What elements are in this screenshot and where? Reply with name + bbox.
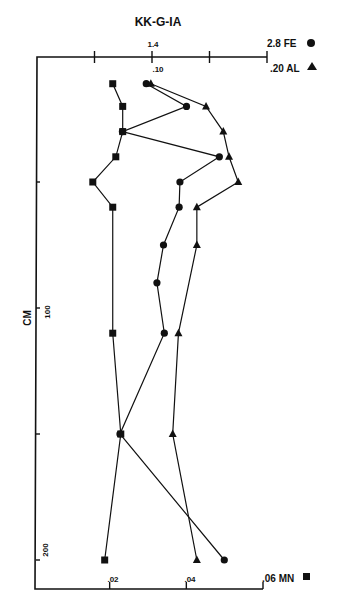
fe-point-circle-icon bbox=[176, 178, 183, 185]
fe-point-circle-icon bbox=[160, 241, 167, 248]
fe-legend-circle-icon bbox=[307, 39, 315, 47]
y-axis-label: CM bbox=[22, 310, 33, 326]
al-point-triangle-icon bbox=[169, 430, 177, 438]
fe-point-circle-icon bbox=[183, 103, 190, 110]
mn-point-square-icon bbox=[117, 431, 124, 438]
series-line-al bbox=[151, 84, 238, 560]
al-point-triangle-icon bbox=[234, 178, 242, 186]
fe-point-circle-icon bbox=[161, 330, 168, 337]
chart-title: KK-G-IA bbox=[135, 15, 182, 29]
al-point-triangle-icon bbox=[193, 556, 201, 564]
fe-point-circle-icon bbox=[153, 279, 160, 286]
al-point-triangle-icon bbox=[225, 152, 233, 160]
al-point-triangle-icon bbox=[193, 241, 201, 249]
mn-point-square-icon bbox=[112, 153, 119, 160]
mn-point-square-icon bbox=[119, 103, 126, 110]
axis-frame bbox=[35, 57, 267, 589]
top-axis-al-max-label: .20 AL bbox=[270, 63, 300, 74]
fe-point-circle-icon bbox=[216, 153, 223, 160]
fe-point-circle-icon bbox=[176, 204, 183, 211]
mn-point-square-icon bbox=[119, 128, 126, 135]
series-line-fe bbox=[120, 84, 224, 560]
mn-point-square-icon bbox=[109, 80, 116, 87]
y-tick-label-200: 200 bbox=[41, 543, 50, 557]
top-axis-fe-max-label: 2.8 FE bbox=[267, 38, 297, 49]
mn-point-square-icon bbox=[109, 330, 116, 337]
al-point-triangle-icon bbox=[193, 203, 201, 211]
mn-legend-square-icon bbox=[303, 573, 310, 580]
mn-point-square-icon bbox=[101, 557, 108, 564]
al-point-triangle-icon bbox=[174, 329, 182, 337]
fe-point-circle-icon bbox=[221, 556, 228, 563]
depth-profile-chart: KK-G-IA 1.4 2.8 FE .10 .20 AL CM 100 200… bbox=[0, 0, 339, 608]
axes bbox=[35, 51, 267, 589]
series-layer bbox=[89, 79, 242, 563]
bottom-axis-label-06-mn: .06 MN bbox=[262, 573, 294, 584]
top-axis-al-mid-label: .10 bbox=[152, 65, 164, 74]
mn-point-square-icon bbox=[109, 204, 116, 211]
al-legend-triangle-icon bbox=[307, 62, 317, 70]
top-axis-fe-mid-label: 1.4 bbox=[147, 40, 159, 49]
mn-point-square-icon bbox=[89, 179, 96, 186]
y-tick-label-100: 100 bbox=[43, 305, 52, 319]
